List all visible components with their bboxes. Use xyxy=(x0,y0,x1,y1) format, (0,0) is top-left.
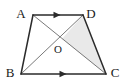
vertex-label-C: C xyxy=(111,65,120,80)
parallel-marker-bc-icon xyxy=(60,71,67,77)
geometry-figure: A D B C O xyxy=(0,0,125,84)
vertex-label-A: A xyxy=(16,6,26,21)
vertex-label-O: O xyxy=(54,43,62,55)
side-AB xyxy=(21,15,33,74)
shaded-triangle-odc xyxy=(62,15,106,74)
vertex-label-B: B xyxy=(6,65,15,80)
vertex-label-D: D xyxy=(86,6,95,21)
figure-canvas: A D B C O xyxy=(0,0,125,84)
parallel-marker-ad-icon xyxy=(54,12,61,18)
